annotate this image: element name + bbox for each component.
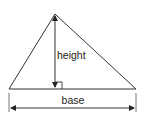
height-label: height — [57, 49, 86, 61]
triangle-diagram: height base — [0, 0, 144, 117]
base-label: base — [62, 94, 85, 106]
right-angle-marker — [55, 82, 62, 89]
